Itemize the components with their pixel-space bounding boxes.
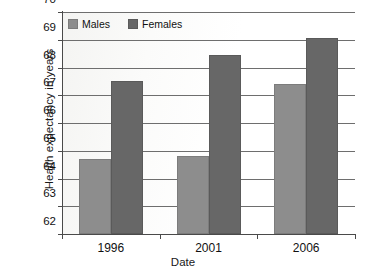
x-tick-mark-1 (160, 234, 161, 239)
y-axis-line (62, 11, 63, 235)
y-tick-mark-63 (58, 206, 62, 207)
x-tick-label-2006: 2006 (276, 241, 336, 255)
x-tick-label-2001: 2001 (179, 241, 239, 255)
x-axis-line (62, 234, 356, 235)
y-tick-label-70: 70 (34, 0, 56, 5)
y-tick-mark-65 (58, 151, 62, 152)
y-tick-label-66: 66 (34, 105, 56, 116)
bar-females-1996 (111, 81, 143, 234)
chart-legend: Males Females (68, 19, 182, 29)
legend-item-females: Females (128, 19, 182, 29)
x-tick-mark-2 (257, 234, 258, 239)
legend-item-males: Males (68, 19, 110, 29)
x-tick-label-1996: 1996 (81, 241, 141, 255)
y-tick-mark-64 (58, 179, 62, 180)
y-tick-label-69: 69 (34, 22, 56, 33)
bar-females-2006 (306, 38, 338, 234)
legend-swatch-females-icon (128, 19, 138, 29)
bar-females-2001 (209, 55, 241, 234)
bar-males-2006 (274, 84, 306, 234)
legend-label-males: Males (82, 19, 110, 29)
gridline-70 (62, 12, 355, 13)
y-axis-tick-labels: 706968676665646362 (28, 0, 56, 222)
x-tick-mark-end (355, 234, 356, 239)
bar-males-1996 (79, 159, 111, 234)
plot-area (62, 12, 355, 234)
x-axis-title: Date (0, 256, 366, 268)
legend-swatch-males-icon (68, 19, 78, 29)
bar-chart: Health expectancy in years 7069686766656… (0, 0, 366, 269)
y-tick-label-64: 64 (34, 161, 56, 172)
y-tick-mark-66 (58, 123, 62, 124)
y-tick-mark-70 (58, 12, 62, 13)
y-tick-label-67: 67 (34, 77, 56, 88)
y-tick-mark-68 (58, 68, 62, 69)
y-tick-label-65: 65 (34, 133, 56, 144)
y-tick-label-68: 68 (34, 50, 56, 61)
x-tick-mark-0 (62, 234, 63, 239)
legend-label-females: Females (142, 19, 182, 29)
y-tick-label-62: 62 (34, 216, 56, 227)
bar-males-2001 (177, 156, 209, 234)
y-tick-label-63: 63 (34, 188, 56, 199)
y-tick-mark-67 (58, 95, 62, 96)
y-tick-mark-69 (58, 40, 62, 41)
